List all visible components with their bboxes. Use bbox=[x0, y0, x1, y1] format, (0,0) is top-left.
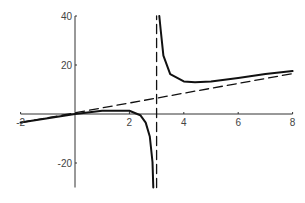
y-tick-label: 40 bbox=[61, 11, 73, 22]
function-curve bbox=[159, 16, 292, 82]
chart-plot: -22468-202040 bbox=[0, 0, 305, 203]
x-tick-label: 4 bbox=[181, 117, 187, 128]
y-tick-label: -20 bbox=[58, 158, 73, 169]
x-tick-label: 2 bbox=[127, 117, 133, 128]
function-curve bbox=[21, 111, 154, 188]
x-tick-label: 8 bbox=[290, 117, 296, 128]
x-tick-label: -2 bbox=[16, 117, 25, 128]
x-tick-label: 6 bbox=[235, 117, 241, 128]
y-tick-label: 20 bbox=[61, 60, 73, 71]
